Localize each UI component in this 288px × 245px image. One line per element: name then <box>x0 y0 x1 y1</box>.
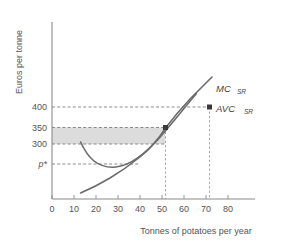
x-tick-label-30: 30 <box>113 204 123 214</box>
x-tick-label-60: 60 <box>179 204 189 214</box>
y-tick-label-350: 350 <box>32 123 47 133</box>
marker-point-60-350 <box>163 125 168 130</box>
chart-figure: 0 10 20 30 40 50 60 70 80 400 350 300 p*… <box>0 0 288 245</box>
economics-cost-curves-chart: 0 10 20 30 40 50 60 70 80 400 350 300 p*… <box>0 0 288 245</box>
x-tick-label-20: 20 <box>91 204 101 214</box>
mc-sr-label-group: MC SR <box>216 83 246 95</box>
mc-sr-label-subscript: SR <box>237 88 246 95</box>
mc-sr-label: MC <box>216 83 231 94</box>
y-tick-label-pstar: p* <box>37 159 47 169</box>
x-tick-label-10: 10 <box>69 204 79 214</box>
x-tick-label-50: 50 <box>157 204 167 214</box>
marker-point-70-400 <box>207 105 212 110</box>
x-axis-title: Tonnes of potatoes per year <box>140 226 252 236</box>
y-tick-label-400: 400 <box>32 102 47 112</box>
x-axis-ticks <box>52 195 228 199</box>
x-tick-label-40: 40 <box>135 204 145 214</box>
profit-band-shaded-region <box>52 128 165 145</box>
avc-sr-label-group: AVC SR <box>215 103 253 115</box>
x-tick-label-70: 70 <box>201 204 211 214</box>
y-tick-label-300: 300 <box>32 139 47 149</box>
avc-sr-label: AVC <box>215 103 235 114</box>
avc-sr-label-subscript: SR <box>244 108 253 115</box>
x-tick-label-80: 80 <box>223 204 233 214</box>
y-axis-title: Euros per tonne <box>14 30 24 94</box>
x-tick-label-0: 0 <box>49 204 54 214</box>
